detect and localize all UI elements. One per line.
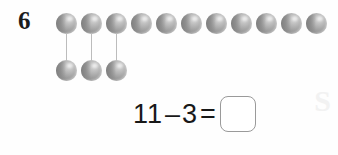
worksheet-page: S 6 11 – 3 = bbox=[0, 0, 338, 155]
counter-sphere bbox=[281, 13, 302, 34]
counter-sphere bbox=[156, 13, 177, 34]
counter-sphere bbox=[256, 13, 277, 34]
counter-connector-line bbox=[66, 33, 67, 61]
equals-operator: = bbox=[200, 100, 216, 128]
counter-sphere bbox=[81, 13, 102, 34]
answer-input-box[interactable] bbox=[220, 96, 256, 132]
counter-sphere bbox=[231, 13, 252, 34]
counter-diagram bbox=[0, 0, 338, 88]
counter-sphere bbox=[106, 60, 127, 81]
counter-sphere bbox=[56, 60, 77, 81]
counter-sphere bbox=[306, 13, 327, 34]
subtrahend: 3 bbox=[182, 100, 198, 128]
counter-sphere bbox=[56, 13, 77, 34]
counter-sphere bbox=[106, 13, 127, 34]
minus-operator: – bbox=[165, 100, 180, 128]
counter-sphere bbox=[131, 13, 152, 34]
counter-sphere bbox=[81, 60, 102, 81]
counter-connector-line bbox=[91, 33, 92, 61]
counter-sphere bbox=[181, 13, 202, 34]
equation-row: 11 – 3 = bbox=[133, 96, 256, 132]
counter-connector-line bbox=[116, 33, 117, 61]
counter-sphere bbox=[206, 13, 227, 34]
minuend: 11 bbox=[133, 100, 163, 128]
